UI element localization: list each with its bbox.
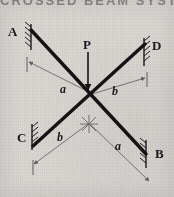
crossed-beam-figure: CROSSED BEAM SYSTEM [0, 0, 174, 197]
support-fixed-a [25, 22, 31, 50]
dimension-label-b-upper-right: b [112, 85, 118, 97]
load-label-p: P [83, 38, 91, 51]
dimension-line-a-upper-left [27, 57, 89, 92]
dimension-label-a-lower-right: a [115, 140, 121, 152]
support-fixed-d [144, 36, 150, 66]
node-label-a: A [8, 25, 17, 38]
dimension-label-a-upper-left: a [60, 83, 66, 95]
node-label-d: D [152, 39, 161, 52]
figure-drawing [0, 0, 174, 197]
dimension-node-marker [80, 115, 98, 133]
dimension-label-b-lower-left: b [57, 131, 63, 143]
clipped-header-label: CROSSED BEAM SYSTEM [0, 0, 174, 8]
clipped-header-text: CROSSED BEAM SYSTEM [0, 0, 174, 9]
node-label-b: B [155, 147, 164, 160]
node-label-c: C [17, 131, 26, 144]
